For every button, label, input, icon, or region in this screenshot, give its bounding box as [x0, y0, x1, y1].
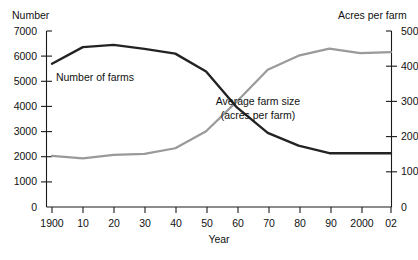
series-annotation-average-farm-size-line2: (acres per farm)	[221, 109, 296, 121]
left-axis-title: Number	[12, 9, 50, 21]
left-tick-label-4000: 4000	[14, 100, 38, 112]
left-tick-label-1000: 1000	[14, 175, 38, 187]
x-tick-label-80: 80	[294, 217, 306, 229]
left-tick-label-7000: 7000	[14, 25, 38, 37]
right-tick-label-300: 300	[401, 95, 418, 107]
x-tick-label-30: 30	[139, 217, 151, 229]
x-tick-label-20: 20	[108, 217, 120, 229]
chart-container: Number Acres per farm 7000 6000 5000 400…	[0, 0, 418, 260]
right-axis-tick-labels: 500 400 300 200 100 0	[401, 25, 418, 213]
left-tick-label-2000: 2000	[14, 150, 38, 162]
left-axis-tick-labels: 7000 6000 5000 4000 3000 2000 1000 0	[14, 25, 38, 213]
left-tick-label-0: 0	[31, 201, 37, 213]
left-tick-label-3000: 3000	[14, 125, 38, 137]
x-tick-label-90: 90	[325, 217, 337, 229]
left-tick-label-6000: 6000	[14, 50, 38, 62]
x-tick-label-02: 02	[385, 217, 397, 229]
x-tick-label-60: 60	[232, 217, 244, 229]
right-tick-label-200: 200	[401, 130, 418, 142]
x-tick-label-1900: 1900	[40, 217, 64, 229]
left-tick-label-5000: 5000	[14, 75, 38, 87]
right-axis-title: Acres per farm	[338, 9, 407, 21]
x-axis-ticks	[52, 207, 391, 213]
x-tick-label-10: 10	[77, 217, 89, 229]
x-tick-label-40: 40	[170, 217, 182, 229]
x-tick-label-2000: 2000	[350, 217, 374, 229]
x-tick-label-50: 50	[201, 217, 213, 229]
right-tick-label-100: 100	[401, 165, 418, 177]
series-annotation-average-farm-size-line1: Average farm size	[216, 95, 301, 107]
x-axis-tick-labels: 1900 10 20 30 40 50 60 70 80 90 2000 02	[40, 217, 397, 229]
x-tick-label-70: 70	[263, 217, 275, 229]
series-annotation-number-of-farms: Number of farms	[56, 71, 134, 83]
dual-axis-line-chart: Number Acres per farm 7000 6000 5000 400…	[0, 0, 418, 260]
right-tick-label-400: 400	[401, 60, 418, 72]
right-tick-label-0: 0	[401, 201, 407, 213]
x-axis-title: Year	[208, 233, 230, 245]
right-tick-label-500: 500	[401, 25, 418, 37]
